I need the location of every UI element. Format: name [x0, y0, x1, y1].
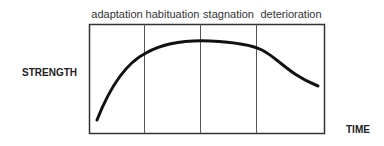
strength-time-diagram	[0, 0, 384, 146]
strength-curve	[97, 41, 318, 120]
